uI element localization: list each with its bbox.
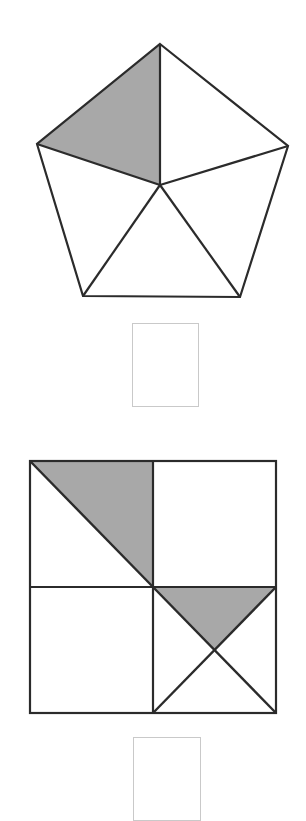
answer-box-pentagon[interactable] xyxy=(132,323,199,407)
answer-box-square[interactable] xyxy=(133,737,201,821)
pentagon-figure xyxy=(37,44,288,297)
square-figure xyxy=(30,461,276,713)
